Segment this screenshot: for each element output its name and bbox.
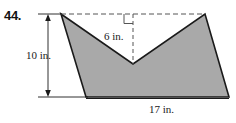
height-dimension-label: 10 in. [26,49,51,61]
figure-page: 44. 10 in. 6 in. 17 in. [0,0,236,123]
right-angle-marker [124,14,133,24]
base-dimension-label: 17 in. [149,103,174,115]
geometry-figure [0,0,236,123]
height-arrow-up [45,14,51,21]
notch-depth-dimension-label: 6 in. [104,30,124,42]
shaded-polygon [61,14,229,97]
height-arrow-down [45,90,51,97]
